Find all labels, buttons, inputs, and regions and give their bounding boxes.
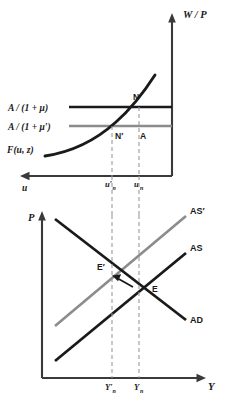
u-axis-label: u bbox=[22, 183, 27, 193]
point-N-label: N bbox=[133, 92, 139, 102]
aggregate-supply-label: AS bbox=[190, 243, 203, 253]
aggregate-supply-new-label: AS′ bbox=[190, 206, 205, 216]
p-axis-label: P bbox=[28, 212, 35, 223]
tick-u-prime-n-label: u′ bbox=[105, 179, 112, 189]
wage-setting-label: F(u, z) bbox=[6, 144, 34, 156]
point-A-label: A bbox=[140, 131, 146, 141]
point-E-label: E bbox=[152, 284, 158, 294]
background bbox=[0, 0, 229, 409]
point-N-prime-label: N′ bbox=[115, 131, 123, 141]
aggregate-demand-label: AD bbox=[190, 315, 203, 325]
price-setting-new-label: A / (1 + μ′) bbox=[7, 121, 51, 133]
figure-canvas: W / P u A / (1 + μ) A / (1 + μ′) F(u, z)… bbox=[0, 0, 229, 409]
tick-u-n-label: u bbox=[134, 179, 139, 189]
point-E-prime-label: E′ bbox=[97, 262, 105, 272]
price-setting-original-label: A / (1 + μ) bbox=[7, 102, 48, 114]
economics-diagram: W / P u A / (1 + μ) A / (1 + μ′) F(u, z)… bbox=[0, 0, 229, 409]
wp-axis-label: W / P bbox=[183, 9, 207, 20]
